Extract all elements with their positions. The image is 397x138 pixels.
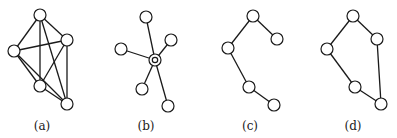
graph-b-edge — [155, 60, 168, 106]
graph-a-node — [8, 45, 20, 57]
graph-b-node — [165, 34, 177, 46]
graph-b-node — [136, 83, 148, 95]
graph-figure: (a)(b)(c)(d) — [0, 0, 397, 138]
graph-d-node — [371, 33, 383, 45]
graph-d-edge — [377, 39, 381, 104]
graph-b-node — [162, 100, 174, 112]
labels-layer: (a)(b)(c)(d) — [34, 119, 362, 133]
graph-a-node — [61, 34, 73, 46]
graph-d-edge — [327, 49, 355, 87]
graph-d-node — [321, 43, 333, 55]
graph-a-edge — [14, 15, 40, 51]
graph-d-node — [349, 81, 361, 93]
graph-a-node — [34, 9, 46, 21]
graph-d-node — [347, 10, 359, 22]
graph-c-node — [222, 42, 234, 54]
graph-b-caption: (b) — [137, 119, 154, 133]
graph-a-caption: (a) — [34, 119, 51, 133]
graph-a-node — [34, 80, 46, 92]
graph-c-node — [243, 81, 255, 93]
graph-c-edge — [228, 48, 249, 87]
graph-b-node — [140, 11, 152, 23]
edges-layer — [14, 15, 381, 106]
graph-c-node — [271, 33, 283, 45]
graph-a-node — [61, 98, 73, 110]
graph-a-edge — [40, 40, 67, 86]
graph-b-center-node-inner — [152, 57, 157, 62]
graph-c-node — [247, 10, 259, 22]
graph-c-caption: (c) — [242, 119, 258, 133]
graph-b-node — [115, 43, 127, 55]
graph-c-node — [268, 99, 280, 111]
graph-d-node — [375, 98, 387, 110]
graph-d-caption: (d) — [344, 119, 361, 133]
